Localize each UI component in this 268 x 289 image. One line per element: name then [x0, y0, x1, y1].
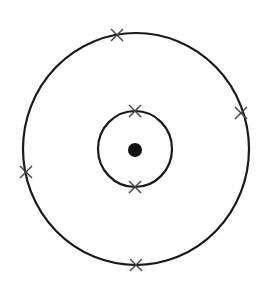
atom-diagram	[0, 0, 268, 289]
nucleus-dot	[128, 143, 142, 157]
nucleus	[128, 143, 142, 157]
